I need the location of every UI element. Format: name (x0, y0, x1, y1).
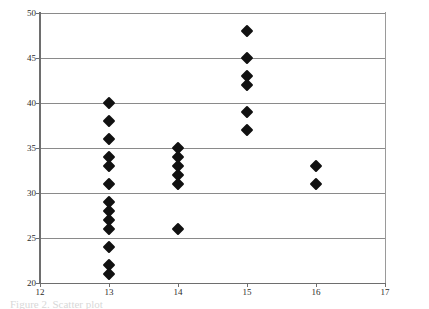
figure-caption: Figure 2. Scatter plot (10, 299, 310, 309)
gridline-y-50 (40, 13, 385, 14)
y-tick-mark-45 (36, 58, 40, 59)
x-tick-label-16: 16 (312, 288, 321, 297)
y-tick-mark-40 (36, 103, 40, 104)
plot-area (40, 13, 385, 283)
y-tick-label-35: 35 (18, 144, 36, 153)
x-tick-label-15: 15 (243, 288, 252, 297)
y-tick-mark-25 (36, 238, 40, 239)
y-tick-mark-30 (36, 193, 40, 194)
gridline-y-40 (40, 103, 385, 104)
gridline-y-35 (40, 148, 385, 149)
plot-wrapper: 20253035404550121314151617 (0, 0, 429, 292)
x-tick-label-13: 13 (105, 288, 114, 297)
y-tick-label-30: 30 (18, 189, 36, 198)
y-tick-label-20: 20 (18, 279, 36, 288)
y-tick-mark-35 (36, 148, 40, 149)
y-tick-label-40: 40 (18, 99, 36, 108)
gridline-y-45 (40, 58, 385, 59)
gridline-y-25 (40, 238, 385, 239)
plot-right-border (385, 12, 386, 284)
y-tick-mark-50 (36, 13, 40, 14)
y-tick-label-50: 50 (18, 9, 36, 18)
gridline-y-30 (40, 193, 385, 194)
x-tick-label-17: 17 (381, 288, 390, 297)
x-tick-label-14: 14 (174, 288, 183, 297)
x-tick-label-12: 12 (36, 288, 45, 297)
y-tick-label-45: 45 (18, 54, 36, 63)
x-axis-line (39, 283, 386, 284)
scatter-plot-figure: 20253035404550121314151617 Figure 2. Sca… (0, 0, 429, 309)
y-tick-label-25: 25 (18, 234, 36, 243)
